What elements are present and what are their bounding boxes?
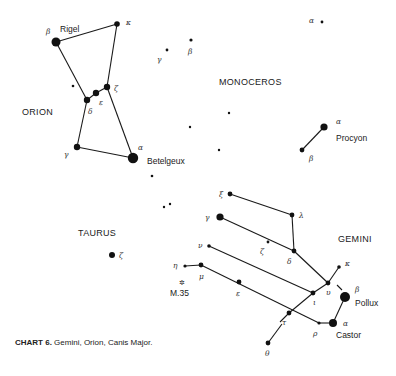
star-name-label: Castor xyxy=(336,330,361,340)
star-greek-label: α xyxy=(309,16,314,25)
star-ori-delta xyxy=(84,97,90,103)
star-ori-gamma xyxy=(74,144,80,150)
constellation-line xyxy=(56,42,87,100)
star-greek-label: ζ xyxy=(114,84,119,93)
star-mon-1 xyxy=(228,112,230,114)
star-gem-gamma xyxy=(216,213,223,220)
star-mon-6 xyxy=(169,203,171,205)
star-gem-epsilon xyxy=(237,280,242,285)
star-gem-xi xyxy=(228,192,233,197)
star-name-label: Betelgeux xyxy=(147,156,186,166)
constellation-line xyxy=(294,251,328,283)
star-ori-beta xyxy=(52,38,61,47)
constellation-line xyxy=(289,293,313,313)
star-ori-zeta xyxy=(104,84,110,90)
star-greek-label: η xyxy=(173,261,178,270)
star-greek-label: θ xyxy=(265,349,270,358)
star-chart-svg: βκζεδγαβγααβζξλγζδνημειυκτραβθORIONMONOC… xyxy=(0,0,396,376)
constellation-label: MONOCEROS xyxy=(219,77,282,87)
constellation-line xyxy=(292,215,294,251)
star-gem-mu xyxy=(199,263,204,268)
star-mon-4 xyxy=(151,175,154,178)
constellation-line xyxy=(77,100,87,147)
star-gem-theta xyxy=(266,341,271,346)
star-greek-label: ε xyxy=(236,289,240,298)
star-gem-nu xyxy=(207,244,211,248)
constellation-line xyxy=(302,127,324,150)
star-ori-alpha xyxy=(128,153,138,163)
star-greek-label: μ xyxy=(199,272,204,281)
star-greek-label: τ xyxy=(282,318,287,327)
constellation-label: GEMINI xyxy=(338,234,372,244)
cluster-icon: ✲ xyxy=(179,279,185,286)
star-greek-label: γ xyxy=(64,150,69,159)
star-ori-extra xyxy=(72,85,75,88)
star-mon-3 xyxy=(218,149,220,151)
star-mon-beta xyxy=(189,38,192,41)
star-gem-upsilon xyxy=(326,281,331,286)
star-greek-label: ρ xyxy=(312,329,318,338)
star-gem-iota xyxy=(311,291,316,296)
star-greek-label: ζ xyxy=(119,251,124,260)
constellation-line xyxy=(185,265,201,266)
star-gem-zeta xyxy=(267,241,270,244)
star-gem-rho xyxy=(317,321,320,324)
star-greek-label: ι xyxy=(313,298,316,307)
constellation-line xyxy=(268,324,282,343)
star-name-label: Procyon xyxy=(336,133,367,143)
star-gem-kappa xyxy=(337,265,341,269)
star-greek-label: δ xyxy=(88,107,93,116)
star-tau-zeta xyxy=(109,252,115,258)
star-gem-tau xyxy=(287,311,292,316)
constellation-line xyxy=(328,267,339,283)
star-greek-label: υ xyxy=(326,288,331,297)
star-greek-label: α xyxy=(343,319,348,328)
star-greek-label: κ xyxy=(125,18,131,27)
constellation-line xyxy=(220,217,294,251)
star-greek-label: β xyxy=(187,47,193,56)
constellation-line xyxy=(107,24,117,87)
star-greek-label: ν xyxy=(198,241,203,250)
star-greek-label: κ xyxy=(344,259,350,268)
constellation-line xyxy=(230,194,292,215)
constellation-label: ORION xyxy=(22,107,53,117)
star-greek-label: α xyxy=(138,143,143,152)
star-gem-delta xyxy=(292,249,297,254)
constellation-line xyxy=(77,147,133,158)
star-greek-label: ε xyxy=(99,98,103,107)
chart-caption: CHART 6. Gemini, Orion, Canis Major. xyxy=(15,338,152,347)
caption-label: CHART 6. xyxy=(15,338,52,347)
star-gem-alpha xyxy=(329,319,337,327)
constellation-line xyxy=(107,87,133,158)
star-greek-label: α xyxy=(336,117,341,126)
star-greek-label: ζ xyxy=(260,247,265,256)
star-gem-eta xyxy=(183,264,186,267)
star-ori-epsilon xyxy=(93,90,99,96)
caption-text: Gemini, Orion, Canis Major. xyxy=(52,338,152,347)
star-greek-label: β xyxy=(45,27,51,36)
constellation-line xyxy=(337,285,342,290)
star-greek-label: γ xyxy=(157,55,162,64)
star-gem-lambda xyxy=(290,213,295,218)
star-name-label: Pollux xyxy=(355,298,379,308)
star-greek-label: γ xyxy=(205,213,210,222)
star-mon-2 xyxy=(189,126,191,128)
star-chart: βκζεδγαβγααβζξλγζδνημειυκτραβθORIONMONOC… xyxy=(0,0,396,376)
star-greek-label: ξ xyxy=(219,190,224,199)
star-name-label: M.35 xyxy=(170,288,189,298)
star-mon-5 xyxy=(163,206,165,208)
star-greek-label: β xyxy=(308,154,314,163)
star-ori-kappa xyxy=(114,21,120,27)
star-cmi-beta xyxy=(300,148,305,153)
constellation-label: TAURUS xyxy=(78,228,116,238)
star-greek-label: β xyxy=(354,285,360,294)
star-gem-beta xyxy=(340,292,350,302)
star-greek-label: λ xyxy=(298,211,304,220)
star-cmi-alpha xyxy=(320,123,327,130)
constellation-line xyxy=(201,265,319,323)
star-mon-alpha xyxy=(321,21,324,24)
star-mon-gamma xyxy=(166,49,169,52)
star-greek-label: δ xyxy=(287,257,292,266)
star-name-label: Rigel xyxy=(60,24,79,34)
